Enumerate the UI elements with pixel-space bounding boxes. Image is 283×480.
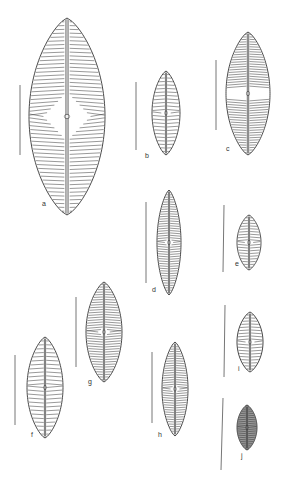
scale-bar-i [224,305,225,377]
diatom-valve-j [237,405,257,450]
specimen-label-d: d [152,286,156,293]
diatom-valve-c [226,32,270,155]
diatom-valve-b [152,71,180,155]
diatom-valve-f [27,337,63,438]
specimen-label-f: f [31,431,33,438]
scale-bar-j [221,398,223,470]
diatom-valve-a [29,18,105,215]
specimen-label-e: e [235,260,239,267]
diatom-valve-g [86,282,122,382]
specimen-label-i: i [238,365,240,372]
diatom-valve-d [157,190,181,295]
diatom-valve-h [162,342,188,436]
diatom-valve-e [237,215,261,270]
diatom-plate [0,0,283,480]
scale-bar-e [223,205,224,272]
specimen-label-g: g [88,378,92,385]
diatom-valve-i [237,312,263,372]
specimen-label-c: c [226,145,230,152]
specimen-label-j: j [241,452,243,459]
specimen-label-h: h [158,431,162,438]
specimen-label-b: b [145,152,149,159]
specimen-label-a: a [42,200,46,207]
